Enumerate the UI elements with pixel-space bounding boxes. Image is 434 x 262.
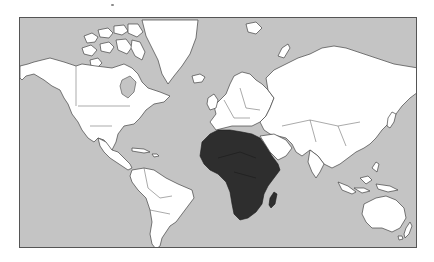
south-america xyxy=(130,168,194,248)
new-zealand xyxy=(404,222,412,238)
svalbard xyxy=(246,22,262,34)
novaya-zemlya xyxy=(278,44,290,58)
world-map xyxy=(19,17,417,248)
greenland xyxy=(142,20,198,84)
madagascar xyxy=(269,192,277,208)
map-svg xyxy=(20,18,417,248)
australia xyxy=(362,196,406,232)
british-isles xyxy=(207,94,218,110)
iceland xyxy=(192,74,205,83)
indonesia xyxy=(338,162,398,194)
tasmania xyxy=(398,236,403,240)
cuba xyxy=(132,148,150,153)
arctic-islands xyxy=(82,24,145,67)
north-america xyxy=(20,58,170,150)
scan-speck xyxy=(111,4,114,6)
